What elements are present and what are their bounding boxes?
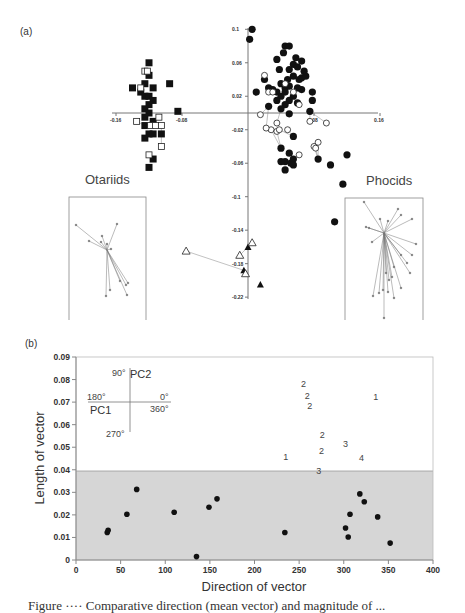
svg-text:0.02: 0.02	[232, 93, 242, 99]
data-point	[206, 504, 212, 510]
data-point	[276, 127, 282, 133]
svg-text:150: 150	[203, 565, 217, 575]
data-point	[141, 114, 148, 121]
data-point	[146, 152, 152, 158]
data-point	[144, 68, 150, 74]
data-point	[105, 527, 111, 533]
svg-text:50: 50	[116, 565, 126, 575]
data-point	[307, 118, 313, 124]
data-point	[182, 247, 190, 254]
svg-text:0.04: 0.04	[53, 465, 70, 475]
data-point	[387, 540, 393, 546]
svg-text:-0.02: -0.02	[232, 127, 244, 133]
data-point	[146, 59, 153, 66]
svg-text:0.1: 0.1	[232, 26, 239, 32]
svg-text:0.05: 0.05	[53, 442, 70, 452]
data-point	[174, 108, 181, 115]
vector-count-label: 1	[283, 452, 288, 462]
data-point	[290, 89, 296, 95]
vector-count-label: 2	[307, 401, 312, 411]
svg-text:-0.16: -0.16	[110, 117, 122, 123]
panel-a-plot: -0.16-0.080.080.160.10.060.02-0.02-0.06-…	[0, 0, 465, 320]
vector-count-label: 2	[319, 446, 324, 456]
data-point	[171, 509, 177, 515]
data-point	[282, 166, 289, 173]
data-point	[286, 42, 293, 49]
svg-text:-0.08: -0.08	[176, 117, 188, 123]
data-point	[158, 143, 164, 149]
data-point	[246, 36, 253, 43]
data-point	[280, 49, 287, 56]
data-point	[138, 85, 144, 91]
svg-text:300: 300	[337, 565, 351, 575]
vector-count-label: 4	[359, 453, 364, 463]
data-point	[343, 151, 350, 158]
svg-text:-0.22: -0.22	[232, 294, 244, 300]
svg-text:-0.18: -0.18	[232, 261, 244, 267]
data-point	[270, 89, 276, 95]
data-point	[277, 105, 284, 112]
data-point	[296, 152, 302, 158]
data-point	[306, 108, 313, 115]
data-point	[257, 281, 264, 288]
data-point	[294, 63, 301, 70]
data-point	[302, 73, 309, 80]
vector-count-label: 2	[320, 430, 325, 440]
vector-count-label: 3	[316, 466, 321, 476]
data-point	[309, 97, 316, 104]
data-point	[282, 81, 288, 87]
data-point	[158, 130, 165, 137]
svg-text:0.09: 0.09	[53, 352, 70, 362]
data-point	[309, 88, 316, 95]
vector-count-label: 1	[373, 392, 378, 402]
data-point	[156, 114, 162, 120]
svg-text:0.03: 0.03	[53, 487, 70, 497]
svg-text:0.02: 0.02	[53, 510, 70, 520]
svg-text:0.01: 0.01	[53, 532, 70, 542]
svg-text:-0.14: -0.14	[232, 227, 244, 233]
svg-text:0.08: 0.08	[53, 375, 70, 385]
data-point	[357, 491, 363, 497]
data-point	[248, 239, 256, 246]
data-point	[273, 56, 280, 63]
svg-text:0.06: 0.06	[232, 60, 242, 66]
svg-text:0: 0	[74, 565, 79, 575]
x-axis-label: Direction of vector	[202, 579, 307, 594]
axis-ticks: -0.16-0.080.080.160.10.060.02-0.02-0.06-…	[110, 26, 384, 300]
data-point	[298, 86, 305, 93]
compass-360: 360°	[150, 404, 169, 414]
data-point	[290, 161, 297, 168]
data-point	[129, 84, 136, 91]
svg-text:-0.06: -0.06	[232, 160, 244, 166]
data-point	[285, 127, 291, 133]
svg-text:250: 250	[292, 565, 306, 575]
data-point	[375, 514, 381, 520]
data-point	[331, 218, 338, 225]
data-point	[345, 534, 351, 540]
data-point	[343, 525, 349, 531]
svg-text:200: 200	[247, 565, 261, 575]
svg-text:100: 100	[158, 565, 172, 575]
data-point	[146, 164, 153, 171]
data-point	[194, 554, 200, 560]
data-point	[298, 58, 305, 65]
compass-180: 180°	[87, 392, 106, 402]
svg-text:0: 0	[65, 555, 70, 565]
data-point	[150, 84, 157, 91]
compass-0: 0°	[160, 392, 169, 402]
figure-caption: Figure ···· Comparative direction (mean …	[28, 598, 385, 613]
data-point	[286, 110, 293, 117]
data-point	[274, 120, 280, 126]
vector-count-label: 2	[301, 379, 306, 389]
data-point	[249, 26, 256, 33]
svg-text:0.07: 0.07	[53, 397, 70, 407]
svg-text:0.16: 0.16	[374, 117, 384, 123]
data-point	[323, 120, 329, 126]
data-point	[315, 139, 321, 145]
data-point	[166, 80, 173, 87]
compass-270: 270°	[106, 429, 125, 439]
data-point	[158, 123, 164, 129]
data-point	[150, 130, 157, 137]
data-point	[361, 499, 367, 505]
panel-b-plot: 00.010.020.030.040.050.060.070.080.09 05…	[0, 323, 465, 613]
